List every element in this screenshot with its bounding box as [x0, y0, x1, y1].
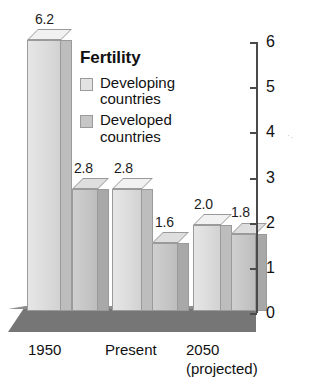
- bar-value-2050-developing: 2.0: [194, 196, 213, 212]
- y-axis-tick-6: [250, 42, 257, 44]
- y-axis-label-5: 5: [266, 78, 275, 96]
- y-axis-tick-4: [250, 132, 257, 134]
- bar-front-face: [112, 189, 142, 311]
- bar-side-face: [61, 40, 72, 311]
- y-axis-label-6: 6: [266, 33, 275, 51]
- bar-top-face: [193, 214, 232, 225]
- x-axis-label-2050: 2050: [186, 341, 219, 358]
- bar-1950-developing[interactable]: [27, 40, 61, 311]
- legend-label-developing: Developing countries: [100, 75, 175, 107]
- legend-title: Fertility: [80, 48, 175, 68]
- bar-top-face: [112, 178, 153, 189]
- bar-front-face: [72, 189, 98, 311]
- x-axis-label-1950: 1950: [28, 341, 61, 358]
- y-axis-tick-0: [250, 313, 257, 315]
- y-axis-label-1: 1: [266, 259, 275, 277]
- bar-value-1950-developing: 6.2: [35, 11, 54, 27]
- bar-value-present-developing: 2.8: [114, 160, 133, 176]
- y-axis-label-4: 4: [266, 123, 275, 141]
- y-axis-label-2: 2: [266, 214, 275, 232]
- y-axis-label-0: 0: [266, 304, 275, 322]
- bar-front-face: [152, 243, 178, 311]
- bar-side-face: [178, 243, 189, 311]
- legend-item-developed[interactable]: Developed countries: [80, 112, 175, 144]
- bar-2050-developing[interactable]: [193, 225, 221, 311]
- chart-legend: Fertility Developing countries Developed…: [80, 48, 175, 150]
- bar-top-face: [152, 232, 189, 243]
- bar-2050-developed[interactable]: [231, 234, 256, 311]
- bar-top-face: [231, 223, 267, 234]
- legend-label-developing-line2: countries: [100, 91, 175, 107]
- x-axis-label-present: Present: [105, 341, 157, 358]
- legend-label-developing-line1: Developing: [100, 74, 175, 91]
- bar-present-developing[interactable]: [112, 189, 142, 311]
- bar-value-1950-developed: 2.8: [74, 160, 93, 176]
- y-axis-tick-5: [250, 87, 257, 89]
- x-axis-sublabel-projected: (projected): [186, 360, 258, 377]
- bar-value-2050-developed: 1.8: [231, 204, 250, 220]
- legend-label-developed-line2: countries: [100, 129, 172, 145]
- legend-swatch-icon-developing: [80, 78, 93, 91]
- bar-front-face: [231, 234, 256, 311]
- bar-side-face: [98, 189, 109, 311]
- legend-swatch-icon-developed: [80, 115, 93, 128]
- bar-top-face: [27, 29, 72, 40]
- bar-front-face: [27, 40, 61, 311]
- legend-label-developed-line1: Developed: [100, 111, 172, 128]
- y-axis-tick-1: [250, 268, 257, 270]
- legend-item-developing[interactable]: Developing countries: [80, 75, 175, 107]
- bar-front-face: [193, 225, 221, 311]
- y-axis-label-3: 3: [266, 169, 275, 187]
- y-axis-tick-3: [250, 178, 257, 180]
- bar-top-face: [72, 178, 109, 189]
- bar-present-developed[interactable]: [152, 243, 178, 311]
- scan-artifact: ·.: [287, 130, 295, 140]
- legend-label-developed: Developed countries: [100, 112, 172, 144]
- fertility-bar-chart: 6.2 2.8 2.8 1.6 2.0 1.8 6 5 4 3 2: [0, 0, 310, 377]
- y-axis-tick-2: [250, 223, 257, 225]
- bar-value-present-developed: 1.6: [155, 214, 174, 230]
- bar-1950-developed[interactable]: [72, 189, 98, 311]
